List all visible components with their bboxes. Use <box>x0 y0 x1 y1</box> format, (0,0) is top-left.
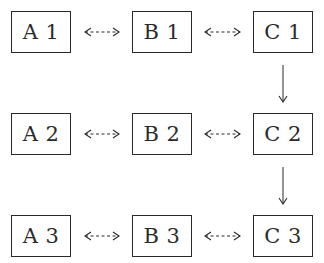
node-a3-label: A 3 <box>23 224 60 248</box>
node-a2-label: A 2 <box>23 122 60 146</box>
node-c1: C 1 <box>253 11 313 53</box>
node-b2: B 2 <box>132 113 192 155</box>
node-b3: B 3 <box>132 215 192 257</box>
node-b1-label: B 1 <box>144 20 181 44</box>
node-c2: C 2 <box>253 113 313 155</box>
node-a2: A 2 <box>11 113 71 155</box>
node-a1-label: A 1 <box>23 20 60 44</box>
node-b1: B 1 <box>132 11 192 53</box>
node-a1: A 1 <box>11 11 71 53</box>
node-b3-label: B 3 <box>144 224 181 248</box>
node-a3: A 3 <box>11 215 71 257</box>
node-c2-label: C 2 <box>264 122 302 146</box>
node-b2-label: B 2 <box>144 122 181 146</box>
node-c1-label: C 1 <box>264 20 302 44</box>
node-c3: C 3 <box>253 215 313 257</box>
node-c3-label: C 3 <box>264 224 302 248</box>
